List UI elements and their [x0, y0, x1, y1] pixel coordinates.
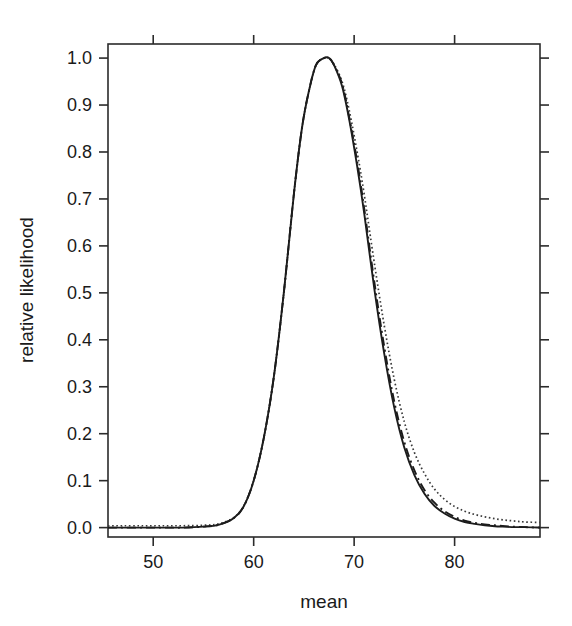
y-tick-label: 0.2	[67, 424, 92, 444]
y-tick-label: 0.3	[67, 377, 92, 397]
x-tick-label: 60	[244, 552, 264, 572]
y-tick-label: 0.8	[67, 142, 92, 162]
y-tick-label: 1.0	[67, 48, 92, 68]
y-tick-label: 0.1	[67, 471, 92, 491]
y-axis-label: relative likelihood	[16, 217, 37, 363]
x-tick-label: 70	[344, 552, 364, 572]
x-axis-label: mean	[300, 591, 348, 612]
relative-likelihood-chart: 50607080 0.00.10.20.30.40.50.60.70.80.91…	[0, 0, 572, 626]
x-tick-label: 80	[445, 552, 465, 572]
y-tick-label: 0.4	[67, 330, 92, 350]
y-tick-label: 0.7	[67, 189, 92, 209]
y-tick-label: 0.0	[67, 518, 92, 538]
y-tick-label: 0.6	[67, 236, 92, 256]
y-tick-label: 0.5	[67, 283, 92, 303]
y-tick-label: 0.9	[67, 95, 92, 115]
x-tick-label: 50	[143, 552, 163, 572]
